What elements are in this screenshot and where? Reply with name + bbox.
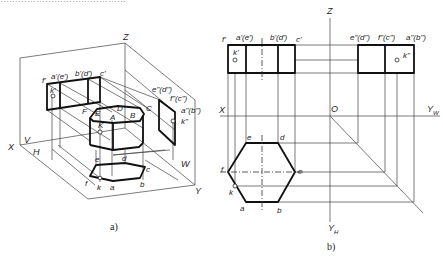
figure-b-three-view: Z X O YW YH f' a'(e') b'(d') c' k' e"(d"… (218, 6, 440, 253)
label-k-dd-b: k" (403, 51, 411, 60)
label-f-prime-b: f' (222, 35, 226, 44)
label-f-dd-c-dd-b: f"(c") (378, 33, 396, 42)
vertex-label-K: K (98, 121, 104, 130)
figure-a-isometric: Z X Y V H W f' a'(e') b'(d') c' k' e"(d"… (7, 32, 202, 233)
vertex-label-C: C (146, 104, 152, 113)
vertex-label-B: B (130, 111, 136, 120)
label-k-prime: k' (50, 86, 56, 95)
axis-label-yw: YW (427, 104, 440, 116)
front-view (228, 38, 295, 80)
axis-45-miter (330, 116, 423, 213)
label-a-dd-b-dd: a"(b") (181, 106, 201, 115)
label-k: k (97, 183, 102, 192)
label-e: e (95, 155, 100, 164)
caption-b: b) (327, 241, 335, 253)
label-f: f (85, 179, 88, 188)
caption-a: a) (110, 221, 118, 233)
label-e-dd-d-dd: e"(d") (152, 85, 172, 94)
label-e-dd-d-dd-b: e"(d") (350, 33, 370, 42)
vertex-label-D: D (117, 104, 123, 113)
label-f-b: f (221, 165, 224, 174)
label-k-dd: k" (181, 117, 189, 126)
point-k-marker-b (233, 184, 237, 188)
plane-label-v: V (24, 135, 31, 145)
label-a-dd-b-dd-b: a"(b") (406, 33, 426, 42)
side-to-miter-projectors (358, 73, 414, 202)
label-k-b: k (229, 188, 234, 197)
point-k-double-prime-marker-b (395, 58, 399, 62)
axis-label-z: Z (122, 32, 129, 42)
origin-label-o: O (331, 104, 338, 114)
axis-label-z-b: Z (326, 6, 333, 16)
front-to-top-projectors (228, 73, 295, 186)
point-k-prime-marker-b (233, 58, 237, 62)
label-a: a (110, 183, 115, 192)
point-K-marker (98, 130, 102, 134)
vertex-label-A: A (109, 113, 115, 122)
plane-label-h: H (33, 147, 40, 157)
label-a-prime-e-prime-b: a'(e') (236, 33, 254, 42)
label-c-prime-b: c' (296, 35, 302, 44)
side-projection-on-w (159, 100, 175, 145)
label-c-b: c (298, 167, 302, 176)
label-c: c (146, 165, 150, 174)
plane-label-w: W (181, 159, 191, 169)
label-a-prime-e-prime: a'(e') (51, 72, 69, 81)
axis-label-x: X (7, 142, 15, 152)
label-b-prime-d-prime: b'(d') (75, 69, 93, 78)
label-e-b: e (247, 133, 252, 142)
point-k-marker (98, 176, 102, 180)
axis-label-x-b: X (218, 105, 226, 115)
label-b-b: b (277, 206, 282, 215)
label-a-b: a (240, 204, 245, 213)
point-k-double-prime-marker (171, 119, 175, 123)
label-d: d (122, 154, 127, 163)
label-f-prime: f' (42, 76, 46, 85)
label-b: b (140, 180, 145, 189)
projection-box-frame (20, 43, 195, 199)
vertex-label-E: E (95, 109, 101, 118)
label-k-prime-b: k' (233, 48, 239, 57)
axis-label-yh: YH (328, 223, 339, 235)
label-d-b: d (280, 133, 285, 142)
top-view-hexagon (220, 135, 305, 210)
label-b-prime-d-prime-b: b'(d') (270, 33, 288, 42)
label-c-prime: c' (100, 69, 106, 78)
axis-label-y: Y (195, 186, 202, 196)
label-f-dd-c-dd: f"(c") (170, 94, 188, 103)
